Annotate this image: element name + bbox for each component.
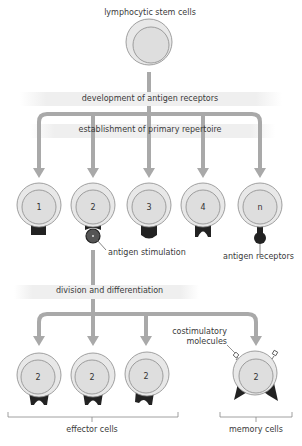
costimulatory-molecule-icon xyxy=(272,350,277,355)
svg-text:2: 2 xyxy=(35,373,40,382)
antigen-stimulation-label: antigen stimulation xyxy=(108,248,186,257)
arrowheads-bottom xyxy=(33,336,262,346)
antigen-receptors-label: antigen receptors xyxy=(223,252,294,261)
repertoire-cell-2 xyxy=(71,183,115,243)
svg-text:4: 4 xyxy=(200,203,205,212)
stem-cell xyxy=(126,19,172,65)
branch-arrows-top xyxy=(39,72,260,170)
arrowheads-top xyxy=(33,168,266,178)
costimulatory-label: costimulatory molecules xyxy=(171,327,227,347)
diagram-graphics: 1 2 3 4 n 2 2 2 xyxy=(0,0,302,446)
svg-text:2: 2 xyxy=(143,372,148,381)
division-stage-label: division and differentiation xyxy=(56,286,163,295)
svg-text:2: 2 xyxy=(253,373,258,382)
svg-text:1: 1 xyxy=(36,203,41,212)
bracket-effector xyxy=(8,412,178,422)
development-stage-label: development of antigen receptors xyxy=(82,94,218,103)
svg-text:2: 2 xyxy=(90,203,95,212)
svg-text:n: n xyxy=(257,203,262,212)
effector-cells-label: effector cells xyxy=(66,425,118,434)
establishment-stage-label: establishment of primary repertoire xyxy=(78,125,221,134)
bracket-memory xyxy=(220,412,292,422)
memory-cells-label: memory cells xyxy=(229,425,283,434)
stem-cells-label: lymphocytic stem cells xyxy=(104,8,196,17)
costimulatory-molecule-icon xyxy=(233,352,239,358)
svg-text:2: 2 xyxy=(89,373,94,382)
repertoire-cell-n xyxy=(238,183,282,255)
svg-text:3: 3 xyxy=(146,203,151,212)
